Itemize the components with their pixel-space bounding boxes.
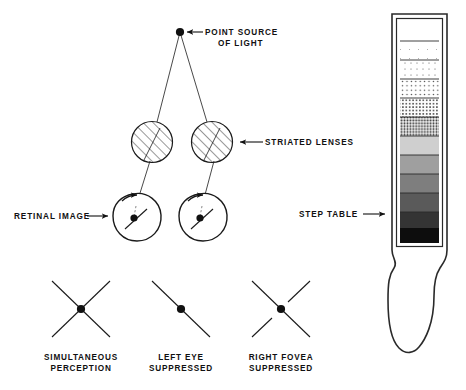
label-step-table: STEP TABLE (299, 210, 358, 219)
step-9 (400, 174, 439, 193)
step-11 (400, 212, 439, 228)
point-source-dot (176, 28, 184, 36)
step-7 (400, 136, 439, 155)
panel-label-left-eye-line1: LEFT EYE (158, 353, 204, 362)
retinal-image-right (179, 193, 227, 241)
step-12 (400, 228, 439, 243)
step-1 (400, 22, 439, 41)
panel-label-simultaneous-line2: PERCEPTION (50, 364, 111, 373)
step-10 (400, 193, 439, 212)
optometry-diagram: POINT SOURCE OF LIGHT STRIATED LENSES (0, 0, 466, 390)
step-table-steps (400, 22, 439, 243)
step-5 (400, 98, 439, 117)
retinal-image-left (113, 193, 161, 241)
panel-label-right-fovea-line2: SUPPRESSED (249, 364, 313, 373)
panel-label-right-fovea-line1: RIGHT FOVEA (249, 353, 314, 362)
label-point-source-line1: POINT SOURCE (205, 28, 278, 37)
figure-canvas: POINT SOURCE OF LIGHT STRIATED LENSES (0, 0, 466, 390)
label-point-source-line2: OF LIGHT (218, 39, 263, 48)
step-2 (400, 41, 439, 60)
step-4 (400, 79, 439, 98)
step-6 (400, 117, 439, 136)
label-retinal-image: RETINAL IMAGE (14, 212, 90, 221)
panel-label-simultaneous-line1: SIMULTANEOUS (44, 353, 118, 362)
figure-footnote (0, 376, 466, 390)
label-striated-lenses: STRIATED LENSES (265, 138, 354, 147)
step-8 (400, 155, 439, 174)
step-3 (400, 60, 439, 79)
panel-label-left-eye-line2: SUPPRESSED (149, 364, 213, 373)
